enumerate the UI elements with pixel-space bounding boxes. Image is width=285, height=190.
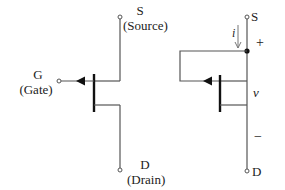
minus-sign: − [254,129,262,144]
source-terminal [118,15,122,19]
source-letter-right: S [251,9,258,24]
drain-letter-right: D [252,164,261,179]
gate-letter: G [33,67,42,82]
current-label: i [232,26,235,40]
source-letter: S [136,3,143,18]
drain-terminal-right [245,169,249,173]
jfet-diode-connected-right: S i + v − D [180,9,264,179]
gate-name: (Gate) [19,82,52,97]
gate-arrow-icon-right [203,77,212,86]
drain-letter: D [140,157,149,172]
plus-sign: + [256,35,264,50]
source-terminal-right [245,15,249,19]
jfet-diagram: S (Source) G (Gate) D (Drain) S i + v − … [0,0,285,190]
gate-source-short-loop [180,51,247,81]
gate-terminal [57,79,61,83]
drain-terminal [118,168,122,172]
source-name: (Source) [123,18,168,33]
voltage-label: v [253,85,259,100]
drain-name: (Drain) [127,172,165,187]
gate-arrow-icon [76,77,85,86]
jfet-symbol-left: S (Source) G (Gate) D (Drain) [19,3,167,187]
